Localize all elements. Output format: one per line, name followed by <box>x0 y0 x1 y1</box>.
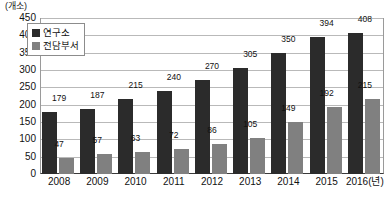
y-axis-tick-label: 300 <box>0 65 36 75</box>
legend-label-1: 전담부서 <box>43 40 79 51</box>
x-axis-tick-label: 2015 <box>316 176 338 188</box>
y-axis-unit-label: (개소) <box>5 1 27 11</box>
bar-value-label: 394 <box>320 19 334 28</box>
bar-2012-1 <box>212 144 227 174</box>
bar-value-label: 105 <box>243 120 257 129</box>
bar-value-label: 270 <box>205 62 219 71</box>
bar-value-label: 305 <box>243 50 257 59</box>
bar-value-label: 47 <box>54 140 63 149</box>
bar-2016-1 <box>365 99 380 174</box>
y-axis-tick-label: 450 <box>0 13 36 23</box>
legend-swatch-icon-0 <box>32 29 40 37</box>
legend: 연구소 전담부서 <box>27 23 85 56</box>
y-axis-tick-label: 50 <box>0 152 36 162</box>
bar-value-label: 72 <box>169 131 178 140</box>
x-axis-tick-label: 2012 <box>201 176 223 188</box>
bar-group: 394192 <box>308 18 346 174</box>
bar-value-label: 192 <box>320 89 334 98</box>
legend-item-1: 전담부서 <box>32 39 79 52</box>
legend-swatch-icon-1 <box>32 42 40 50</box>
bar-group: 408215 <box>346 18 384 174</box>
bar-value-label: 57 <box>93 136 102 145</box>
y-axis-tick-label: 100 <box>0 134 36 144</box>
bar-value-label: 187 <box>90 91 104 100</box>
y-axis-tick-label: 0 <box>0 169 36 179</box>
x-axis: 200820092010201120122013201420152016(년) <box>40 176 384 192</box>
bar-2010-1 <box>135 152 150 174</box>
x-axis-tick-label: 2011 <box>163 176 185 188</box>
bar-chart: (개소) 050100150200250300350400450 1794718… <box>0 0 390 199</box>
bar-value-label: 215 <box>128 81 142 90</box>
x-axis-tick-label: 2009 <box>86 176 108 188</box>
bar-2014-1 <box>288 122 303 174</box>
bar-group: 27086 <box>193 18 231 174</box>
bar-value-label: 63 <box>131 134 140 143</box>
bar-value-label: 240 <box>167 73 181 82</box>
bar-2008-1 <box>59 158 74 174</box>
bar-value-label: 179 <box>52 94 66 103</box>
x-axis-tick-label: 2008 <box>48 176 70 188</box>
legend-label-0: 연구소 <box>43 27 70 38</box>
y-axis-tick-label: 250 <box>0 82 36 92</box>
bar-group: 305105 <box>231 18 269 174</box>
x-axis-tick-label: 2014 <box>277 176 299 188</box>
bar-2011-1 <box>174 149 189 174</box>
y-axis-tick-label: 200 <box>0 100 36 110</box>
bar-2009-1 <box>97 154 112 174</box>
y-axis-tick-label: 150 <box>0 117 36 127</box>
legend-item-0: 연구소 <box>32 26 79 39</box>
x-axis-tick-label: 2010 <box>124 176 146 188</box>
bar-group: 24072 <box>155 18 193 174</box>
bar-2015-0 <box>310 37 325 174</box>
bar-value-label: 149 <box>281 104 295 113</box>
bar-group: 21563 <box>116 18 154 174</box>
bar-group: 350149 <box>269 18 307 174</box>
bar-value-label: 408 <box>358 15 372 24</box>
bar-2015-1 <box>327 107 342 174</box>
bar-2013-1 <box>250 138 265 174</box>
bar-value-label: 86 <box>207 126 216 135</box>
x-axis-tick-label: 2013 <box>239 176 261 188</box>
x-axis-tick-label: 2016(년) <box>346 176 384 188</box>
bar-2016-0 <box>348 33 363 174</box>
bar-value-label: 215 <box>358 81 372 90</box>
bar-value-label: 350 <box>281 35 295 44</box>
bars-layer: 1794718757215632407227086305105350149394… <box>40 18 384 174</box>
